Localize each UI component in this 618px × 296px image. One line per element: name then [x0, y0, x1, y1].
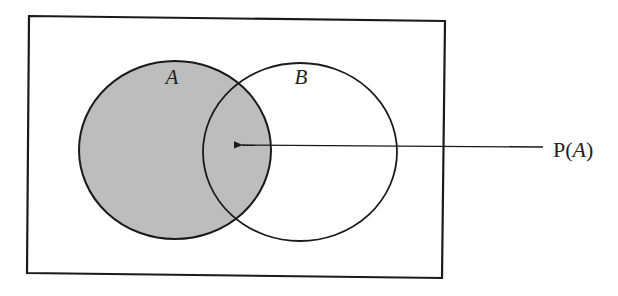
set-b-label: B: [295, 65, 308, 89]
venn-diagram: A B P(A): [0, 0, 618, 296]
probability-label: P(A): [553, 137, 593, 162]
set-a-label: A: [164, 65, 179, 89]
